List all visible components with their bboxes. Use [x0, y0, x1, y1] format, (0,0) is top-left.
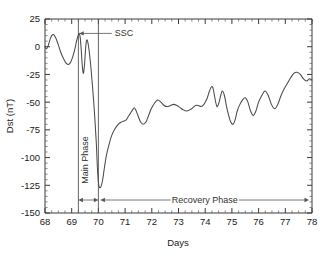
y-tick-label: -150	[21, 207, 40, 218]
chart-canvas: 250-25-50-75-100-125-150 686970717273747…	[0, 0, 329, 257]
x-tick-label: 78	[307, 216, 318, 227]
y-tick-label: -50	[26, 97, 40, 108]
y-tick-label: -75	[26, 124, 40, 135]
main-phase-label: Main Phase	[80, 136, 90, 184]
y-tick-label: 0	[35, 41, 40, 52]
x-tick-label: 76	[253, 216, 264, 227]
ssc-annotation: SSC	[79, 28, 134, 38]
main-phase-arrow-head-right	[94, 198, 99, 202]
x-tick-label: 72	[147, 216, 158, 227]
y-axis-title: Dst (nT)	[4, 99, 15, 133]
main-phase-arrow-head-left	[78, 198, 83, 202]
x-axis-title: Days	[167, 237, 189, 248]
main-phase-annotation: Main Phase	[78, 136, 98, 202]
x-tick-label: 73	[173, 216, 184, 227]
y-tick-label: -100	[21, 152, 40, 163]
x-tick-label: 77	[280, 216, 291, 227]
x-tick-label: 68	[40, 216, 51, 227]
y-tick-label: -125	[21, 180, 40, 191]
x-tick-label: 69	[66, 216, 77, 227]
y-axis-ticks: 250-25-50-75-100-125-150	[21, 13, 50, 218]
x-tick-label: 74	[200, 216, 211, 227]
x-axis-ticks: 6869707172737475767778	[40, 208, 318, 227]
recovery-phase-label: Recovery Phase	[172, 195, 238, 205]
ssc-label: SSC	[115, 28, 134, 38]
recovery-phase-arrow-head-right	[305, 198, 310, 202]
dst-index-chart-figure: 250-25-50-75-100-125-150 686970717273747…	[0, 0, 329, 257]
recovery-phase-annotation: Recovery Phase	[100, 195, 309, 205]
recovery-phase-arrow-head-left	[100, 198, 105, 202]
x-tick-label: 70	[93, 216, 104, 227]
x-tick-label: 71	[120, 216, 131, 227]
y-tick-label: -25	[26, 69, 40, 80]
x-tick-label: 75	[227, 216, 238, 227]
y-tick-label: 25	[29, 13, 40, 24]
